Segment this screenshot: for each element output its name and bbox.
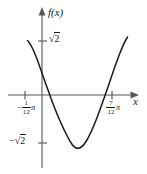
x-tick-label-neg-pi-12: −112π [10, 100, 42, 116]
fraction: 712 [106, 100, 115, 116]
fraction-numerator: 1 [22, 100, 31, 107]
x-tick-label-7pi-12: 712π [98, 100, 128, 116]
y-axis [39, 7, 46, 168]
y-axis-arrowhead [39, 7, 46, 16]
radical-sqrt2: √2 [49, 34, 60, 44]
fraction-denominator: 12 [106, 107, 115, 116]
pi-symbol: π [115, 104, 120, 112]
y-tick-label-sqrt2: √2 [49, 34, 60, 44]
pi-symbol: π [31, 104, 36, 112]
x-axis-label: x [133, 96, 138, 107]
y-tick-label-neg-sqrt2: −√2 [9, 136, 26, 146]
fraction-group: −112π [17, 100, 36, 116]
fraction-denominator: 12 [22, 107, 31, 116]
x-axis [8, 92, 139, 99]
y-axis-label: f(x) [48, 7, 63, 18]
fraction-numerator: 7 [106, 100, 115, 107]
radical-sqrt2: √2 [15, 136, 26, 146]
radical-argument: 2 [20, 134, 26, 146]
tick-marks [25, 41, 112, 143]
function-graph-figure: f(x) x √2 −√2 −112π 712π [0, 0, 147, 174]
fraction-group: 712π [106, 100, 120, 116]
radical-argument: 2 [54, 32, 60, 44]
fraction: 112 [22, 100, 31, 116]
graph-canvas [0, 0, 147, 174]
